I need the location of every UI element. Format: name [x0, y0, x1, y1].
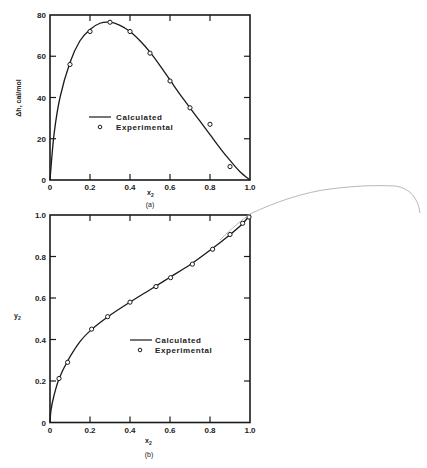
- x-tick-label: 0.2: [84, 426, 96, 435]
- y-axis-label-a: Δh, cal/mol: [15, 79, 23, 116]
- experimental-point: [208, 122, 212, 126]
- legend-marker-swatch-a: [98, 125, 102, 129]
- experimental-point: [154, 284, 158, 288]
- experimental-markers-b: [57, 215, 251, 381]
- calculated-curve-a: [50, 22, 250, 180]
- calculated-curve-b: [50, 215, 250, 423]
- experimental-point: [211, 247, 215, 251]
- x-tick-label: 0.6: [164, 183, 176, 192]
- legend-b: Calculated Experimental: [130, 336, 212, 355]
- y-tick-label: 0: [42, 176, 47, 185]
- tick-labels-a: 00.20.40.60.81.0020406080: [37, 11, 256, 192]
- chart-panel-a: 00.20.40.60.81.0020406080 Calculated Exp…: [15, 11, 256, 209]
- experimental-point: [228, 232, 232, 236]
- y-tick-label: 0: [42, 419, 47, 428]
- experimental-point: [188, 106, 192, 110]
- experimental-markers-a: [68, 20, 232, 169]
- x-tick-label: 1.0: [244, 426, 256, 435]
- experimental-point: [108, 20, 112, 24]
- x-tick-label: 0.2: [84, 183, 96, 192]
- x-tick-label: 0.4: [124, 426, 136, 435]
- experimental-point: [57, 376, 61, 380]
- x-tick-label: 0.6: [164, 426, 176, 435]
- y-tick-label: 80: [37, 11, 46, 20]
- chart-panel-b: 00.20.40.60.81.000.20.40.60.81.0 Calcula…: [14, 211, 256, 459]
- y-tick-label: 0.4: [35, 336, 47, 345]
- experimental-point: [90, 327, 94, 331]
- experimental-point: [168, 79, 172, 83]
- y-tick-label: 60: [37, 52, 46, 61]
- x-tick-label: 0: [48, 426, 53, 435]
- y-tick-label: 0.2: [35, 377, 47, 386]
- legend-marker-swatch-b: [138, 348, 142, 352]
- experimental-point: [190, 262, 194, 266]
- legend-calculated-a: Calculated: [116, 113, 162, 122]
- experimental-point: [128, 300, 132, 304]
- y-tick-label: 1.0: [35, 211, 47, 220]
- x-axis-label-a: x2: [147, 189, 154, 198]
- experimental-point: [106, 315, 110, 319]
- legend-experimental-a: Experimental: [116, 123, 173, 132]
- legend-experimental-b: Experimental: [155, 346, 212, 355]
- experimental-point: [128, 29, 132, 33]
- experimental-point: [169, 276, 173, 280]
- x-tick-label: 0.8: [204, 183, 216, 192]
- plot-frame-b: [50, 215, 250, 423]
- legend-a: Calculated Experimental: [89, 113, 173, 132]
- y-axis-label-b: y2: [14, 312, 21, 321]
- x-axis-label-b: x2: [145, 437, 152, 446]
- x-tick-label: 0.8: [204, 426, 216, 435]
- caption-a: (a): [146, 201, 155, 209]
- y-tick-label: 40: [37, 94, 46, 103]
- experimental-point: [88, 29, 92, 33]
- x-tick-label: 1.0: [244, 183, 256, 192]
- legend-calculated-b: Calculated: [155, 336, 201, 345]
- y-tick-label: 20: [37, 135, 46, 144]
- caption-b: (b): [145, 451, 154, 459]
- experimental-point: [241, 221, 245, 225]
- experimental-point: [148, 51, 152, 55]
- tick-labels-b: 00.20.40.60.81.000.20.40.60.81.0: [35, 211, 256, 435]
- experimental-point: [68, 62, 72, 66]
- experimental-point: [66, 360, 70, 364]
- y-tick-label: 0.6: [35, 294, 47, 303]
- axis-ticks-b: [50, 215, 250, 423]
- x-tick-label: 0: [48, 183, 53, 192]
- y-tick-label: 0.8: [35, 253, 47, 262]
- x-tick-label: 0.4: [124, 183, 136, 192]
- experimental-point: [228, 164, 232, 168]
